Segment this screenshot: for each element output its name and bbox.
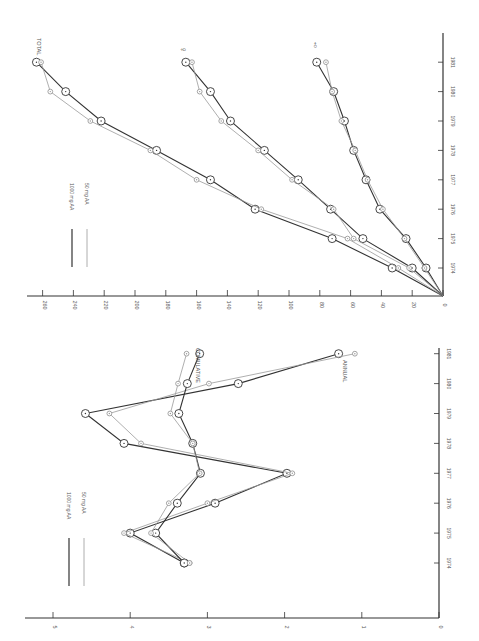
value-tick-label: 0 <box>442 303 448 306</box>
series-line <box>192 62 443 296</box>
value-tick-label: 220 <box>103 300 109 309</box>
year-tick-label: 1978 <box>446 438 452 449</box>
year-tick-label: 1976 <box>450 204 456 215</box>
year-tick-label: 1977 <box>446 468 452 479</box>
label-total: TOTAL <box>36 38 42 55</box>
value-tick-label: 1 <box>361 625 367 628</box>
chart-annual-cumulative: 01234519741975197619771978197919801981CU… <box>25 348 452 629</box>
year-tick-label: 1981 <box>446 348 452 359</box>
value-tick-label: 20 <box>411 302 417 308</box>
year-tick-label: 1974 <box>450 262 456 273</box>
value-tick-label: 40 <box>380 302 386 308</box>
male-symbol: ♂ <box>309 39 322 52</box>
legend-label-1000: 1000 mg AA <box>69 183 75 211</box>
rotated-line-charts: 01234519741975197619771978197919801981CU… <box>0 0 479 641</box>
value-tick-label: 240 <box>72 300 78 309</box>
year-tick-label: 1980 <box>446 378 452 389</box>
year-tick-label: 1981 <box>450 57 456 68</box>
label-annual: ANNUAL <box>342 360 348 382</box>
legend-label-1000: 1000 mg AA <box>66 492 72 520</box>
value-tick-label: 260 <box>42 300 48 309</box>
year-tick-label: 1976 <box>446 498 452 509</box>
value-tick-label: 4 <box>129 625 135 628</box>
label-cumulative: CUMULATIVE <box>195 348 201 383</box>
series-line <box>326 62 443 296</box>
year-tick-label: 1975 <box>450 233 456 244</box>
value-tick-label: 160 <box>196 300 202 309</box>
value-tick-label: 5 <box>52 625 58 628</box>
series-line <box>41 62 443 296</box>
legend-label-50: 50 mg AA <box>84 183 90 205</box>
year-tick-label: 1975 <box>446 528 452 539</box>
year-tick-label: 1977 <box>450 174 456 185</box>
year-tick-label: 1974 <box>446 557 452 568</box>
value-tick-label: 2 <box>284 625 290 628</box>
year-tick-label: 1979 <box>450 115 456 126</box>
figure: 01234519741975197619771978197919801981CU… <box>0 0 479 641</box>
value-tick-label: 120 <box>257 300 263 309</box>
value-tick-label: 200 <box>134 300 140 309</box>
value-tick-label: 60 <box>350 302 356 308</box>
series-line <box>186 62 443 296</box>
year-tick-label: 1979 <box>446 408 452 419</box>
female-symbol: ♀ <box>178 46 189 54</box>
value-tick-label: 80 <box>319 302 325 308</box>
value-tick-label: 180 <box>165 300 171 309</box>
year-tick-label: 1978 <box>450 145 456 156</box>
value-tick-label: 140 <box>226 300 232 309</box>
value-tick-label: 0 <box>438 625 444 628</box>
series-line <box>36 62 443 296</box>
series-line <box>317 62 443 296</box>
chart-total-female-male: 0204060801001201401601802002202402601974… <box>27 33 456 310</box>
legend-label-50: 50 mg AA <box>81 492 87 514</box>
year-tick-label: 1980 <box>450 86 456 97</box>
value-tick-label: 100 <box>288 300 294 309</box>
value-tick-label: 3 <box>206 625 212 628</box>
